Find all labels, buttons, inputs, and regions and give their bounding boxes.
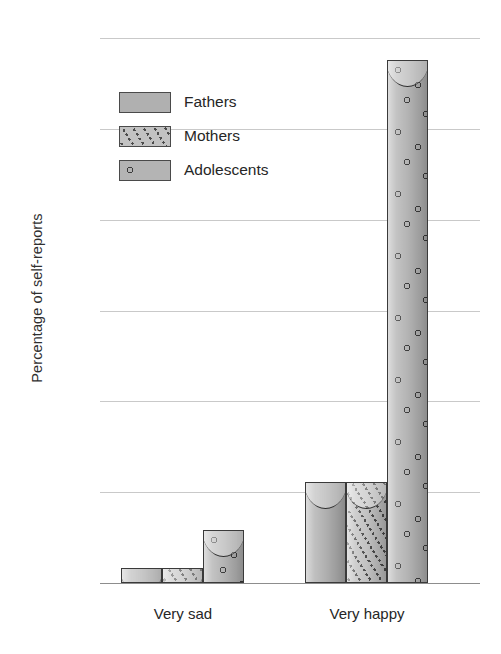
bar-very-happy-adolescents [387,60,428,583]
bar-fill-mothers [347,483,386,582]
circles-swatch-icon [119,160,171,181]
bar-fill-adolescents [388,61,427,582]
bar-fill-fathers [306,483,345,582]
legend: Fathers Mothers Adolescents [119,88,268,190]
bar-fill-fathers [122,569,161,582]
legend-label-mothers: Mothers [184,127,240,145]
x-tick-label-very-happy: Very happy [305,605,429,622]
bar-very-sad-adolescents [203,530,244,583]
x-tick-label-very-sad: Very sad [121,605,245,622]
legend-item-fathers: Fathers [119,88,268,116]
bar-very-happy-fathers [305,482,346,583]
legend-label-adolescents: Adolescents [184,161,268,179]
bar-very-happy-mothers [346,482,387,583]
bar-very-sad-fathers [121,568,162,583]
axis-baseline [100,583,480,584]
solid-gray-swatch-icon [119,92,171,113]
legend-item-adolescents: Adolescents [119,156,268,184]
y-axis-title: Percentage of self-reports [29,188,45,408]
bar-fill-adolescents [204,531,243,582]
gridline-30 [100,38,480,39]
bar-fill-mothers [163,569,202,582]
legend-item-mothers: Mothers [119,122,268,150]
bar-chart: Percentage of self-reports 30 25 20 15 1… [0,0,501,654]
diagonal-dotted-swatch-icon [119,126,171,147]
bar-very-sad-mothers [162,568,203,583]
legend-label-fathers: Fathers [184,93,237,111]
